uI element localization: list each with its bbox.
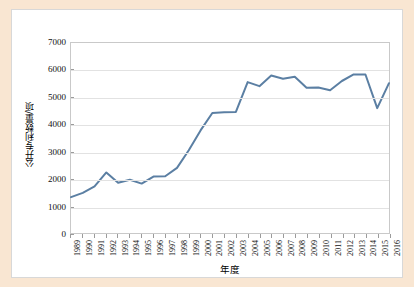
x-axis-tick-mark: [271, 234, 272, 238]
y-axis-tick-label: 7000: [22, 37, 66, 47]
y-axis-tick-label: 3000: [22, 147, 66, 157]
x-axis-tick-label: 2009: [310, 240, 319, 256]
x-axis-tick-label: 1996: [156, 240, 165, 256]
y-axis-tick-label: 6000: [22, 64, 66, 74]
x-axis-tick-mark: [106, 234, 107, 238]
x-axis-tick-label: 1999: [192, 240, 201, 256]
x-axis-tick-label: 1993: [121, 240, 130, 256]
x-axis-tick-mark: [354, 234, 355, 238]
x-axis-tick-label: 2006: [275, 240, 284, 256]
x-axis-tick-mark: [70, 234, 71, 238]
x-axis-tick-label: 2010: [322, 240, 331, 256]
x-axis-tick-mark: [212, 234, 213, 238]
x-axis-tick-mark: [117, 234, 118, 238]
x-axis-tick-label: 1990: [85, 240, 94, 256]
x-axis-tick-mark: [82, 234, 83, 238]
x-axis-tick-mark: [307, 234, 308, 238]
x-axis-tick-label: 2005: [263, 240, 272, 256]
x-axis-tick-mark: [153, 234, 154, 238]
plot-area: [70, 42, 390, 234]
x-axis-tick-label: 2002: [227, 240, 236, 256]
gridline: [71, 125, 389, 126]
x-axis-tick-mark: [378, 234, 379, 238]
y-axis-tick-label: 5000: [22, 92, 66, 102]
x-axis-tick-mark: [129, 234, 130, 238]
x-axis-title: 年度: [70, 262, 390, 276]
x-axis-tick-label: 2016: [393, 240, 402, 256]
x-axis-tick-label: 1994: [132, 240, 141, 256]
x-axis-tick-mark: [189, 234, 190, 238]
y-axis-tick-label: 1000: [22, 202, 66, 212]
chart-figure: 公开专利数量/项 01000200030004000500060007000 1…: [11, 9, 403, 278]
gridline: [71, 70, 389, 71]
y-axis-tick-label: 0: [22, 229, 66, 239]
x-axis-tick-label: 2008: [298, 240, 307, 256]
x-axis-tick-mark: [165, 234, 166, 238]
x-axis-tick-label: 2014: [369, 240, 378, 256]
x-axis-tick-mark: [331, 234, 332, 238]
x-axis-tick-label: 2013: [358, 240, 367, 256]
x-axis-tick-mark: [94, 234, 95, 238]
x-axis-tick-mark: [248, 234, 249, 238]
x-axis-tick-mark: [319, 234, 320, 238]
gridline: [71, 98, 389, 99]
x-axis-tick-mark: [390, 234, 391, 238]
x-axis-tick-label: 1989: [73, 240, 82, 256]
x-axis-tick-label: 1991: [97, 240, 106, 256]
x-axis-tick-mark: [141, 234, 142, 238]
x-axis-tick-label: 1995: [144, 240, 153, 256]
x-axis-tick-label: 2000: [204, 240, 213, 256]
x-axis-tick-mark: [224, 234, 225, 238]
x-axis-tick-mark: [283, 234, 284, 238]
x-axis-tick-label: 1992: [109, 240, 118, 256]
x-axis-tick-mark: [343, 234, 344, 238]
y-axis-tick-labels: 01000200030004000500060007000: [20, 42, 66, 234]
patent-count-line: [71, 74, 389, 197]
x-axis-tick-label: 2011: [334, 240, 343, 256]
x-axis-tick-mark: [200, 234, 201, 238]
x-axis-tick-mark: [295, 234, 296, 238]
x-axis-tick-label: 1998: [180, 240, 189, 256]
x-axis-tick-label: 2001: [215, 240, 224, 256]
y-axis-tick-label: 2000: [22, 174, 66, 184]
gridline: [71, 180, 389, 181]
x-axis-tick-mark: [177, 234, 178, 238]
x-axis-tick-label: 2004: [251, 240, 260, 256]
y-axis-tick-label: 4000: [22, 119, 66, 129]
x-axis-tick-label: 2015: [381, 240, 390, 256]
x-axis-tick-label: 2003: [239, 240, 248, 256]
x-axis-tick-label: 2007: [287, 240, 296, 256]
gridline: [71, 208, 389, 209]
x-axis-tick-mark: [236, 234, 237, 238]
x-axis-tick-mark: [366, 234, 367, 238]
gridline: [71, 153, 389, 154]
x-axis-tick-label: 1997: [168, 240, 177, 256]
x-axis-tick-mark: [260, 234, 261, 238]
data-line-series: [71, 43, 389, 233]
x-axis-tick-label: 2012: [346, 240, 355, 256]
